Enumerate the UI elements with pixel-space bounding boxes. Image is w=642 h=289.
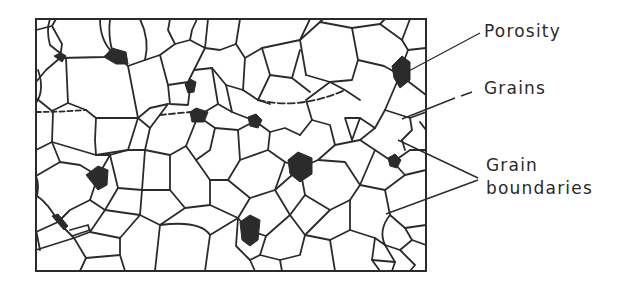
- pore: [185, 79, 196, 93]
- pore: [104, 48, 128, 64]
- pore: [248, 114, 262, 128]
- microstructure-diagram: [0, 0, 642, 289]
- grains-label: Grains: [484, 80, 546, 97]
- pore: [190, 108, 208, 122]
- grain-boundaries-leader-upper: [398, 140, 478, 178]
- pore: [388, 154, 401, 168]
- grain-network: [36, 19, 426, 271]
- pore: [240, 215, 260, 246]
- grains-leader: [461, 92, 472, 96]
- porosity-leader: [405, 33, 480, 73]
- porosity-label: Porosity: [484, 23, 561, 40]
- pore: [288, 152, 312, 182]
- pore: [86, 166, 108, 190]
- grains-leader-main: [402, 98, 455, 119]
- pore: [52, 214, 68, 230]
- pores: [52, 48, 410, 246]
- grain-boundaries-leader-lower: [386, 180, 478, 214]
- grain-boundaries-label-line2: boundaries: [486, 180, 593, 197]
- grain-boundaries-label-line1: Grain: [486, 157, 538, 174]
